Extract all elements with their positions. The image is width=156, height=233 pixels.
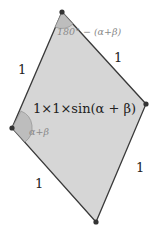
side-label-bottom-left: 1 (35, 176, 43, 191)
left-angle-label: α+β (29, 126, 49, 137)
vertex-right (143, 101, 148, 106)
side-label-top-left: 1 (18, 62, 26, 77)
vertex-bottom (93, 219, 98, 224)
vertex-top (59, 9, 64, 14)
rhombus-shape (12, 12, 146, 222)
top-angle-label: 180° − (α+β) (57, 26, 121, 37)
side-label-bottom-right: 1 (136, 160, 144, 175)
area-label: 1×1×sin(α + β) (33, 101, 136, 116)
rhombus-diagram: 180° − (α+β) α+β 1×1×sin(α + β) 1 1 1 1 (0, 0, 156, 233)
side-label-top-right: 1 (114, 50, 122, 65)
vertex-left (9, 125, 14, 130)
